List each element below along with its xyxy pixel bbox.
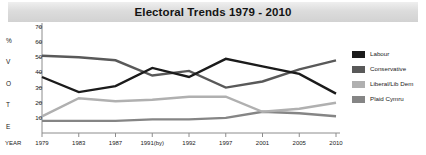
y-tick-label: 60 (35, 39, 42, 45)
y-tick-label: 40 (35, 69, 42, 75)
legend-swatch-icon (352, 51, 365, 58)
y-tick-label: 30 (35, 85, 42, 91)
x-tick-label: 1979 (35, 140, 48, 146)
legend-item-liberal-lib-dem: Liberal/Lib Dem (352, 77, 426, 92)
x-tick-label: 1991(by) (140, 140, 164, 146)
legend-swatch-icon (352, 96, 365, 103)
legend-label: Conservative (370, 66, 406, 72)
y-tick-label: 50 (35, 54, 42, 60)
y-tick-label: 70 (35, 24, 42, 30)
legend-item-labour: Labour (352, 47, 426, 62)
x-tick-label: 1992 (182, 140, 195, 146)
electoral-trends-chart: Electoral Trends 1979 - 2010 % V O T E 1… (0, 0, 426, 155)
y-axis-tick-labels: 10203040506070 (26, 22, 42, 134)
x-tick-label: 2005 (293, 140, 306, 146)
y-tick-label: 20 (35, 100, 42, 106)
legend-item-conservative: Conservative (352, 62, 426, 77)
x-tick-label: 1983 (72, 140, 85, 146)
legend-item-plaid-cymru: Plaid Cymru (352, 92, 426, 107)
legend-label: Plaid Cymru (370, 96, 404, 102)
legend-swatch-icon (352, 66, 365, 73)
series-lines (42, 56, 336, 121)
x-tick-label: 1987 (109, 140, 122, 146)
x-tick-label: 1997 (219, 140, 232, 146)
y-tick-label: 10 (35, 115, 42, 121)
x-axis-title: YEAR (5, 140, 21, 146)
legend-label: Labour (370, 51, 389, 57)
legend-label: Liberal/Lib Dem (370, 81, 413, 87)
chart-legend: Labour Conservative Liberal/Lib Dem Plai… (352, 47, 426, 107)
x-tick-label: 2001 (256, 140, 269, 146)
x-tick-label: 2010 (329, 140, 342, 146)
x-axis-tick-labels: 1979198319871991(by)19921997200120052010 (0, 140, 426, 152)
legend-swatch-icon (352, 81, 365, 88)
